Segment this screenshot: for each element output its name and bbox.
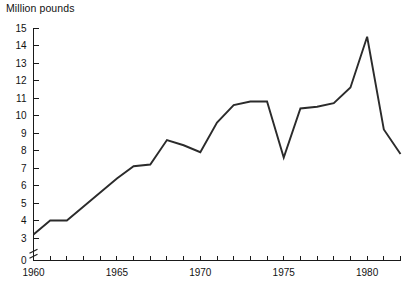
x-tick-label: 1970 xyxy=(189,267,212,278)
y-tick-label: 10 xyxy=(15,110,27,121)
chart-container: Million pounds 03456789101112131415 1960… xyxy=(0,0,408,281)
y-axis: 03456789101112131415 xyxy=(15,23,38,267)
x-tick-label: 1965 xyxy=(106,267,129,278)
y-tick-label: 4 xyxy=(21,215,27,226)
y-tick-label: 3 xyxy=(21,233,27,244)
y-tick-label: 12 xyxy=(15,75,27,86)
x-tick-label: 1980 xyxy=(356,267,379,278)
x-tick-label: 1975 xyxy=(273,267,296,278)
x-tick-label: 1960 xyxy=(22,267,45,278)
data-series-group xyxy=(34,37,401,235)
y-tick-label: 13 xyxy=(15,58,27,69)
line-chart-plot: 03456789101112131415 1960196519701975198… xyxy=(0,0,408,281)
y-tick-label: 11 xyxy=(16,93,27,104)
y-tick-label: 7 xyxy=(21,163,27,174)
y-tick-label: 8 xyxy=(21,145,27,156)
y-tick-label: 15 xyxy=(15,23,27,34)
y-tick-label: 6 xyxy=(21,180,27,191)
y-tick-label: 0 xyxy=(21,255,27,266)
x-axis: 19601965197019751980 xyxy=(22,256,400,278)
y-tick-label: 5 xyxy=(21,198,27,209)
data-line-series-0 xyxy=(34,37,401,235)
y-tick-label: 14 xyxy=(15,40,27,51)
y-tick-label: 9 xyxy=(21,128,27,139)
